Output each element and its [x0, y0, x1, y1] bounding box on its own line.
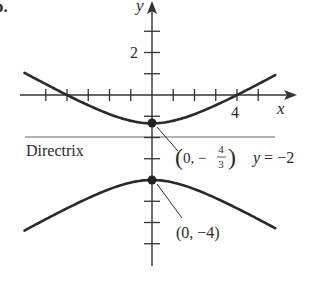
- directrix-label: Directrix: [26, 142, 84, 159]
- x-tick-label-4: 4: [231, 104, 239, 121]
- fraction-denominator: 3: [218, 158, 224, 170]
- lower-vertex-label: (0, −4): [176, 224, 220, 242]
- upper-vertex-label-prefix: 0, −: [183, 150, 206, 166]
- lower-vertex-leader: [157, 184, 182, 218]
- x-axis-label: x: [276, 99, 285, 118]
- hyperbola-diagram: b. x y 4 2 Directrix: [0, 0, 327, 281]
- upper-vertex-point: [148, 119, 157, 128]
- fraction-numerator: 4: [218, 143, 224, 155]
- lower-vertex-point: [148, 176, 157, 185]
- problem-label: b.: [0, 0, 8, 16]
- close-paren: ): [228, 144, 236, 170]
- diagram-canvas: b. x y 4 2 Directrix: [0, 0, 327, 281]
- y-tick-label-2: 2: [130, 44, 138, 61]
- directrix-equation: y = −2: [251, 149, 294, 167]
- y-axis-label: y: [134, 0, 144, 15]
- upper-vertex-label: ( 0, − 4 3 ): [175, 143, 236, 170]
- open-paren: (: [175, 144, 183, 170]
- y-axis: [144, 1, 160, 266]
